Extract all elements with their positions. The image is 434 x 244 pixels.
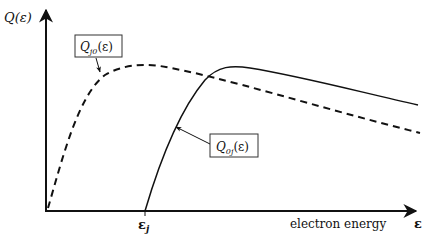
q-j0-sub: j0 <box>88 47 98 56</box>
threshold-label: εj <box>138 217 150 234</box>
svg-text:Q0j(ε): Q0j(ε) <box>216 140 249 156</box>
svg-text:Qj0(ε): Qj0(ε) <box>80 40 113 56</box>
q-j0-main: Q <box>80 40 90 54</box>
cross-section-diagram: Q(ε) Qj0(ε) Q0j(ε) εj electron energy ε <box>0 0 434 244</box>
q-j0-pointer-arrow <box>96 58 100 72</box>
label-q-0j: Q0j(ε) <box>176 127 258 157</box>
label-q-j0: Qj0(ε) <box>75 35 122 72</box>
y-axis-label: Q(ε) <box>4 10 32 25</box>
q-j0-arg: (ε) <box>97 40 113 54</box>
q-0j-arg: (ε) <box>233 140 249 154</box>
q-0j-pointer-arrow <box>176 127 210 144</box>
x-axis-symbol: ε <box>414 216 422 231</box>
q-0j-main: Q <box>216 140 226 154</box>
curve-q-0j-solid <box>145 67 418 211</box>
x-axis-label: electron energy <box>290 217 386 231</box>
